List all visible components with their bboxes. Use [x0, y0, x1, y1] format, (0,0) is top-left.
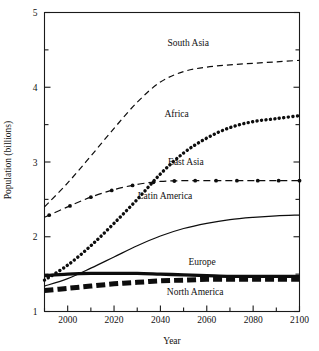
y-tick-label: 1 [33, 307, 38, 317]
y-tick-label: 2 [33, 232, 38, 242]
data-point-marker [89, 195, 93, 199]
data-point-marker [214, 179, 218, 183]
data-point-marker [298, 179, 302, 183]
x-axis-title: Year [163, 336, 181, 346]
x-tick-label: 2060 [197, 315, 216, 325]
population-projection-chart: 12345 200020202040206020802100 South Asi… [0, 0, 319, 351]
y-tick-label: 5 [33, 8, 38, 18]
data-point-marker [193, 179, 197, 183]
y-axis-title: Population (billions) [3, 121, 14, 199]
data-point-marker [277, 179, 281, 183]
y-tick-label: 4 [33, 83, 38, 93]
y-axis-tick-labels: 12345 [33, 8, 38, 317]
data-point-marker [235, 179, 239, 183]
data-point-marker [152, 180, 156, 184]
series-europe [45, 273, 300, 276]
series-label-east-asia: East Asia [168, 157, 204, 167]
series-label-south-asia: South Asia [168, 38, 210, 48]
y-tick-label: 3 [33, 158, 38, 168]
series-label-europe: Europe [188, 257, 215, 267]
data-point-marker [110, 189, 114, 193]
series-label-latin-america: Latin America [138, 191, 193, 201]
data-point-marker [131, 184, 135, 188]
chart-figure: 12345 200020202040206020802100 South Asi… [0, 0, 319, 351]
data-point-marker [47, 213, 51, 217]
x-tick-label: 2080 [244, 315, 263, 325]
x-tick-label: 2000 [58, 315, 77, 325]
x-tick-label: 2040 [151, 315, 170, 325]
series-labels: South AsiaAfricaEast AsiaLatin AmericaEu… [138, 38, 225, 297]
x-axis-ticks [45, 306, 300, 312]
data-point-marker [172, 179, 176, 183]
data-point-marker [68, 204, 72, 208]
x-tick-label: 2100 [290, 315, 309, 325]
series-label-africa: Africa [165, 109, 190, 119]
series-label-north-america: North America [167, 287, 225, 297]
x-axis-tick-labels: 200020202040206020802100 [58, 315, 309, 325]
data-point-marker [256, 179, 260, 183]
x-tick-label: 2020 [105, 315, 124, 325]
series-south-asia [45, 60, 300, 207]
series-paths [45, 60, 302, 290]
